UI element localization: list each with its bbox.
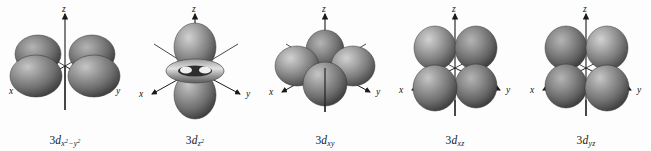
axis-label-x: x [8,86,14,96]
orbital-panel-3d-z2: z x y 3 [130,0,260,151]
axis-label-y: y [636,85,642,95]
orbital-render-3d-xz: z x y [390,0,520,126]
axis-label-x: x [529,85,535,95]
orbital-caption-3d-x2-y2: 3dx2−y2 [0,134,130,148]
axis-label-z: z [451,4,456,14]
axis-label-x: x [398,85,404,95]
orbital-render-3d-z2: z x y [130,0,260,126]
orbital-caption-3d-xz: 3dxz [390,134,520,148]
orbital-panel-3d-yz: z x y 3dyz [521,0,651,151]
orbital-panel-3d-xz: z x y 3dxz [390,0,520,151]
orbital-panel-3d-x2-y2: z x y 3dx2−y2 [0,0,130,151]
d-orbital-figure: z x y 3dx2−y2 [0,0,651,151]
axis-label-z: z [582,4,587,14]
axis-label-y: y [505,85,511,95]
orbital-lobes-3d-z2 [166,23,224,119]
orbital-render-3d-xy: z x y [260,0,390,126]
axis-label-y: y [245,89,251,99]
orbital-torus-3d-z2 [166,59,224,83]
orbital-caption-3d-xy: 3dxy [260,134,390,148]
axis-label-x: x [138,89,144,99]
axis-label-z: z [191,4,196,14]
axis-label-y: y [375,87,381,97]
orbital-panel-3d-xy: z x y 3dxy [260,0,390,151]
axis-label-z: z [321,4,326,14]
orbital-caption-3d-yz: 3dyz [521,134,651,148]
orbital-caption-3d-z2: 3dz2 [130,134,260,148]
orbital-render-3d-x2-y2: z x y [0,0,130,126]
axis-label-x: x [268,87,274,97]
axis-label-z: z [61,4,66,14]
orbital-render-3d-yz: z x y [521,0,651,126]
